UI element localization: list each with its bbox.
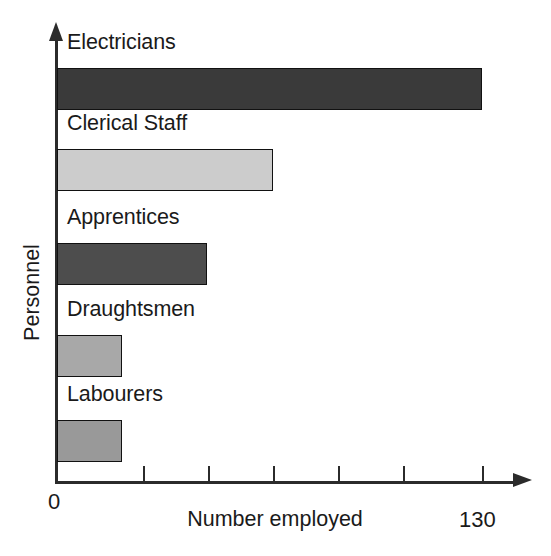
bar-clerical-staff	[57, 149, 273, 191]
y-axis-arrow-icon	[49, 22, 63, 41]
bar-chart: ElectriciansClerical StaffApprenticesDra…	[0, 0, 551, 556]
y-axis-title: Personnel	[20, 213, 45, 373]
bar-electricians	[57, 68, 482, 110]
x-axis-arrow-icon	[513, 473, 532, 487]
x-axis-min-label: 0	[48, 489, 60, 515]
bar-draughtsmen	[57, 335, 122, 377]
bar-label-apprentices: Apprentices	[67, 207, 179, 229]
bar-label-clerical-staff: Clerical Staff	[67, 113, 187, 135]
bar-apprentices	[57, 243, 207, 285]
x-axis-title: Number employed	[160, 507, 390, 532]
x-axis-tick-2	[273, 466, 275, 483]
x-axis-tick-0	[143, 466, 145, 483]
x-axis-max-label: 130	[459, 507, 496, 533]
bar-label-electricians: Electricians	[67, 32, 176, 54]
x-axis-tick-5	[482, 466, 484, 483]
bar-label-labourers: Labourers	[67, 384, 163, 406]
x-axis-tick-1	[208, 466, 210, 483]
x-axis-line	[55, 481, 517, 484]
x-axis-tick-3	[338, 466, 340, 483]
x-axis-tick-4	[403, 466, 405, 483]
bar-label-draughtsmen: Draughtsmen	[67, 299, 195, 321]
bar-labourers	[57, 420, 122, 462]
